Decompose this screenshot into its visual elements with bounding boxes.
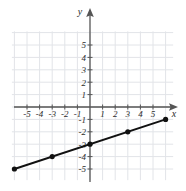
data-point [163, 117, 168, 122]
data-point [87, 142, 92, 147]
y-tick-label: 1 [82, 90, 87, 100]
y-tick-label: 2 [82, 78, 87, 88]
x-tick-label: 1 [100, 109, 105, 119]
data-point [12, 166, 17, 171]
y-tick-label: 4 [82, 53, 87, 63]
coordinate-plane-svg: -5-4-3-2-112345 54321-1-2-3-4-5 x y [0, 0, 186, 191]
x-tick-label: 4 [138, 109, 143, 119]
coordinate-graph-figure: -5-4-3-2-112345 54321-1-2-3-4-5 x y [0, 0, 186, 191]
y-tick-label: -5 [79, 164, 87, 174]
x-tick-label: -4 [36, 109, 44, 119]
y-tick-label: 3 [81, 65, 87, 75]
x-tick-label: -3 [48, 109, 56, 119]
x-tick-label: 3 [125, 109, 131, 119]
x-tick-label: 2 [113, 109, 118, 119]
x-tick-label: 5 [151, 109, 156, 119]
y-tick-label: -4 [79, 152, 87, 162]
grid-lines [12, 31, 173, 180]
data-point [125, 129, 130, 134]
data-point [50, 154, 55, 159]
x-tick-label: -5 [23, 109, 31, 119]
x-axis-label: x [171, 108, 177, 119]
y-axis-label: y [77, 6, 83, 17]
y-tick-label: -2 [79, 127, 87, 137]
y-tick-label: 5 [82, 40, 87, 50]
y-tick-label: -1 [79, 115, 87, 125]
x-tick-label: -2 [61, 109, 69, 119]
